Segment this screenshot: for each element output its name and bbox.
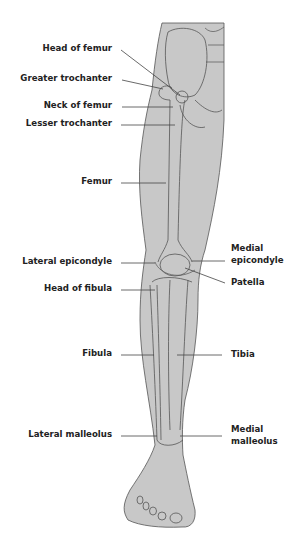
label-neck-of-femur: Neck of femur [0, 100, 112, 110]
label-medial-malleolus-line1: Medial [231, 424, 263, 434]
label-head-of-femur: Head of femur [0, 43, 112, 53]
label-fibula: Fibula [0, 348, 112, 358]
label-tibia: Tibia [231, 349, 255, 359]
label-greater-trochanter: Greater trochanter [0, 73, 112, 83]
label-femur: Femur [0, 176, 112, 186]
label-lateral-malleolus: Lateral malleolus [0, 429, 112, 439]
label-head-of-fibula: Head of fibula [0, 283, 112, 293]
label-patella: Patella [231, 277, 265, 287]
label-medial-malleolus-line2: malleolus [231, 436, 278, 446]
label-lesser-trochanter: Lesser trochanter [0, 118, 112, 128]
label-medial-epicondyle-line1: Medial [231, 243, 263, 253]
leg-bone-diagram: Head of femur Greater trochanter Neck of… [0, 0, 297, 547]
label-medial-epicondyle-line2: epicondyle [231, 255, 284, 265]
label-lateral-epicondyle: Lateral epicondyle [0, 256, 112, 266]
